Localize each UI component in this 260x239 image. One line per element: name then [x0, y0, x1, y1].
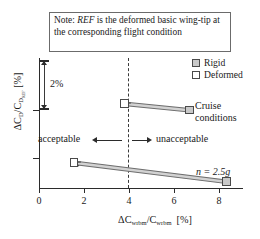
x-axis-title: ΔCwrbm/Cwrbm [%]: [60, 214, 250, 225]
acceptability-annotation: acceptable unacceptable: [34, 133, 244, 147]
chart-figure: Note: REF is the deformed basic wing-tip…: [0, 0, 260, 239]
x-title-sub: wrbm: [131, 219, 146, 226]
arrow-right-icon: [147, 137, 152, 143]
x-tick-label: 8: [217, 195, 222, 206]
cruise-annotation-line2: conditions: [195, 112, 257, 124]
y-title-part: ΔC: [12, 117, 23, 130]
data-point-loadcase-rigid[interactable]: [222, 177, 231, 186]
note-box: Note: REF is the deformed basic wing-tip…: [49, 12, 231, 52]
y-title-sub: D: [17, 112, 24, 117]
note-prefix: Note:: [54, 15, 77, 25]
x-axis-tick: [84, 188, 85, 193]
cruise-annotation-line1: Cruise: [195, 100, 257, 112]
legend-item-rigid: Rigid: [192, 57, 258, 69]
cruise-connector: [124, 102, 189, 112]
y-title-unit: [%]: [12, 73, 23, 88]
y-axis-tick: [33, 110, 39, 111]
arrow-up-icon: [41, 61, 47, 65]
data-point-cruise-deformed[interactable]: [120, 99, 129, 108]
x-title-sub: wrbm: [156, 219, 171, 226]
arrow-down-icon: [41, 105, 47, 109]
data-point-loadcase-deformed[interactable]: [70, 158, 79, 167]
legend-label-deformed: Deformed: [204, 69, 243, 81]
note-emphasis: REF: [77, 15, 94, 25]
x-title-part: ΔC: [118, 214, 131, 225]
scale-bar-label: 2%: [50, 78, 63, 89]
x-tick-label: 0: [37, 195, 42, 206]
legend: Rigid Deformed: [192, 57, 258, 81]
x-title-part: /C: [147, 214, 157, 225]
scale-bar-2-percent: [44, 60, 45, 110]
x-axis-tick: [39, 188, 40, 193]
acceptable-label: acceptable: [38, 133, 80, 144]
x-tick-label: 4: [127, 195, 132, 206]
x-title-unit: [%]: [177, 214, 192, 225]
data-point-cruise-rigid[interactable]: [185, 106, 194, 115]
x-axis-tick: [129, 188, 130, 193]
y-axis-title: ΔCD/CDREF [%]: [12, 47, 23, 157]
legend-label-rigid: Rigid: [204, 57, 225, 69]
y-title-sub-d: D: [17, 98, 24, 103]
threshold-dashed-line: [128, 58, 129, 188]
x-axis-tick: [219, 188, 220, 193]
unacceptable-label: unacceptable: [156, 133, 208, 144]
filled-square-icon: [192, 59, 200, 67]
arrow-left-shaft: [96, 140, 122, 141]
x-tick-label: 2: [82, 195, 87, 206]
x-axis: [39, 188, 243, 189]
arrow-right-shaft: [132, 140, 148, 141]
open-square-icon: [192, 71, 200, 79]
x-axis-tick: [174, 188, 175, 193]
x-tick-label: 6: [172, 195, 177, 206]
y-axis: [39, 58, 40, 188]
y-title-part: /C: [12, 103, 23, 113]
legend-item-deformed: Deformed: [192, 69, 258, 81]
cruise-conditions-annotation: Cruise conditions: [195, 100, 257, 123]
y-axis-tick: [33, 158, 39, 159]
y-title-sub-ref: REF: [21, 90, 26, 98]
load-case-annotation: n = 2.5g: [196, 166, 230, 178]
y-title-sub: DREF: [17, 90, 24, 102]
